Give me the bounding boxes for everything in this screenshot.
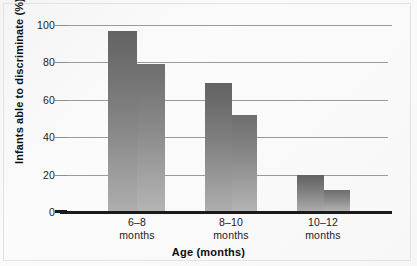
y-tick-label-60: 60 <box>43 94 55 106</box>
y-tick-20 <box>55 175 67 176</box>
x-axis-baseline <box>60 211 392 214</box>
cat-2-line2: months <box>186 229 276 242</box>
x-tick-label-8-10-months: 8–10 months <box>186 216 276 241</box>
cat-3-line1: 10–12 <box>308 216 338 228</box>
y-tick-label-100: 100 <box>37 19 55 31</box>
y-tick-60 <box>55 100 67 101</box>
y-tick-80 <box>55 62 67 63</box>
chart-figure: Infants able to discriminate (%) 100 80 … <box>0 0 417 266</box>
y-axis-tick-labels: 100 80 60 40 20 0 <box>22 25 55 212</box>
bar-8-10-months-series-2 <box>232 115 257 212</box>
x-tick-label-10-12-months: 10–12 months <box>278 216 368 241</box>
y-tick-label-40: 40 <box>43 131 55 143</box>
cat-1-line1: 6–8 <box>128 216 146 228</box>
cat-1-line2: months <box>92 229 182 242</box>
bar-6-8-months-series-2 <box>137 64 165 212</box>
x-axis-title: Age (months) <box>0 246 417 258</box>
cat-2-line1: 8–10 <box>219 216 243 228</box>
bar-10-12-months-series-2 <box>324 190 350 212</box>
x-tick-label-6-8-months: 6–8 months <box>92 216 182 241</box>
y-tick-label-20: 20 <box>43 169 55 181</box>
y-axis-title-wrap: Infants able to discriminate (%) <box>2 20 22 220</box>
y-tick-100 <box>55 25 67 26</box>
cat-3-line2: months <box>278 229 368 242</box>
bar-6-8-months-series-1 <box>108 31 137 212</box>
bar-10-12-months-series-1 <box>297 175 324 212</box>
y-tick-label-80: 80 <box>43 56 55 68</box>
plot-area <box>66 25 392 212</box>
bar-8-10-months-series-1 <box>205 83 232 212</box>
gridline-100 <box>66 25 392 26</box>
y-tick-40 <box>55 137 67 138</box>
x-axis-category-labels: 6–8 months 8–10 months 10–12 months <box>66 216 392 250</box>
